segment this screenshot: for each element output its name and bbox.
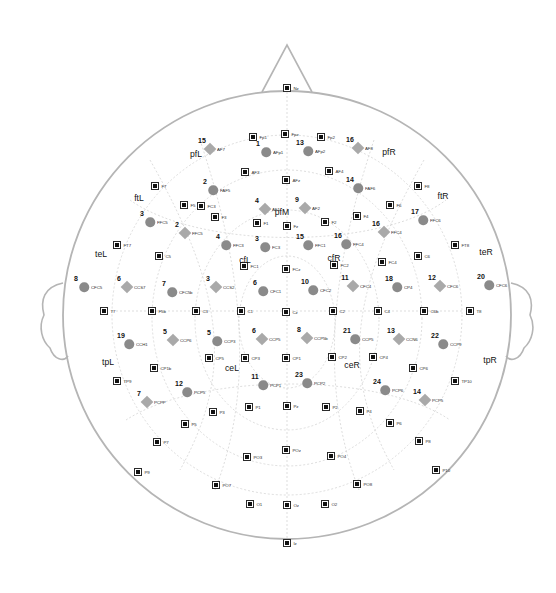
electrode-marker[interactable]	[414, 182, 422, 190]
electrode-inner	[330, 308, 336, 314]
region-diamond-label: PCPP	[154, 400, 166, 405]
region-circle-marker[interactable]	[380, 385, 390, 395]
electrode-marker[interactable]	[100, 307, 108, 315]
electrode-marker[interactable]	[386, 201, 394, 209]
region-circle-marker[interactable]	[341, 239, 351, 249]
electrode-marker[interactable]	[353, 212, 361, 220]
electrode-marker[interactable]	[241, 354, 249, 362]
region-diamond-label: FFC5	[192, 231, 203, 236]
region-circle-marker[interactable]	[392, 282, 402, 292]
electrode-marker[interactable]	[451, 377, 459, 385]
electrode-marker[interactable]	[209, 408, 217, 416]
electrode-marker[interactable]	[283, 222, 291, 230]
electrode-marker[interactable]	[283, 402, 291, 410]
electrode-marker[interactable]	[245, 403, 253, 411]
electrode-marker[interactable]	[322, 403, 330, 411]
electrode-marker[interactable]	[415, 437, 423, 445]
region-circle-marker[interactable]	[212, 336, 222, 346]
region-circle-marker[interactable]	[167, 287, 177, 297]
region-circle-marker[interactable]	[484, 280, 494, 290]
region-circle-marker[interactable]	[145, 217, 155, 227]
electrode-marker[interactable]	[237, 307, 245, 315]
region-circle-marker[interactable]	[438, 339, 448, 349]
electrode-marker[interactable]	[153, 438, 161, 446]
electrode-marker[interactable]	[113, 241, 121, 249]
region-circle-marker[interactable]	[303, 146, 313, 156]
region-circle-marker[interactable]	[208, 185, 218, 195]
electrode-marker[interactable]	[283, 539, 291, 547]
electrode-marker[interactable]	[353, 480, 361, 488]
electrode-marker[interactable]	[212, 481, 220, 489]
electrode-marker[interactable]	[148, 307, 156, 315]
electrode-marker[interactable]	[327, 452, 335, 460]
region-circle-label: CFC5	[91, 285, 102, 290]
region-circle-marker[interactable]	[79, 282, 89, 292]
region-circle-marker[interactable]	[182, 387, 192, 397]
electrode-inner	[213, 482, 219, 488]
electrode-marker[interactable]	[246, 500, 254, 508]
region-circle-marker[interactable]	[308, 285, 318, 295]
electrode-marker[interactable]	[253, 219, 261, 227]
electrode-marker[interactable]	[369, 353, 377, 361]
electrode-marker[interactable]	[181, 420, 189, 428]
region-circle-marker[interactable]	[221, 240, 231, 250]
electrode-label: FT8	[462, 243, 470, 248]
electrode-inner	[246, 404, 252, 410]
electrode-marker[interactable]	[283, 501, 291, 509]
electrode-marker[interactable]	[356, 407, 364, 415]
electrode-marker[interactable]	[155, 252, 163, 260]
electrode-marker[interactable]	[150, 364, 158, 372]
electrode-inner	[326, 168, 332, 174]
region-circle-marker[interactable]	[260, 242, 270, 252]
electrode-marker[interactable]	[134, 468, 142, 476]
electrode-marker[interactable]	[374, 307, 382, 315]
region-circle-marker[interactable]	[302, 378, 312, 388]
region-diamond-label: CFC6	[447, 284, 458, 289]
electrode-marker[interactable]	[113, 377, 121, 385]
electrode-marker[interactable]	[378, 258, 386, 266]
electrode-marker[interactable]	[432, 466, 440, 474]
electrode-marker[interactable]	[282, 354, 290, 362]
electrode-inner	[206, 355, 212, 361]
region-diamond-label: CCS2	[223, 285, 234, 290]
region-circle-marker[interactable]	[124, 339, 134, 349]
electrode-marker[interactable]	[409, 364, 417, 372]
region-circle-number: 15	[296, 233, 304, 240]
region-circle-marker[interactable]	[258, 286, 268, 296]
region-circle-marker[interactable]	[303, 240, 313, 250]
region-circle-marker[interactable]	[258, 380, 268, 390]
electrode-marker[interactable]	[205, 354, 213, 362]
region-circle-marker[interactable]	[261, 147, 271, 157]
electrode-marker[interactable]	[282, 446, 290, 454]
electrode-marker[interactable]	[282, 308, 290, 316]
electrode-marker[interactable]	[282, 265, 290, 273]
region-circle-marker[interactable]	[353, 183, 363, 193]
electrode-inner	[149, 308, 155, 314]
electrode-marker[interactable]	[243, 453, 251, 461]
region-circle-label: CFC5b	[179, 290, 192, 295]
electrode-marker[interactable]	[192, 307, 200, 315]
electrode-marker[interactable]	[317, 133, 325, 141]
region-label: tpR	[483, 355, 496, 365]
electrode-marker[interactable]	[241, 168, 249, 176]
electrode-marker[interactable]	[328, 353, 336, 361]
electrode-marker[interactable]	[466, 307, 474, 315]
electrode-marker[interactable]	[451, 241, 459, 249]
electrode-marker[interactable]	[420, 307, 428, 315]
electrode-marker[interactable]	[414, 252, 422, 260]
electrode-marker[interactable]	[281, 130, 289, 138]
electrode-marker[interactable]	[329, 307, 337, 315]
electrode-inner	[421, 308, 427, 314]
region-circle-marker[interactable]	[350, 334, 360, 344]
electrode-marker[interactable]	[197, 202, 205, 210]
electrode-marker[interactable]	[386, 419, 394, 427]
electrode-marker[interactable]	[151, 182, 159, 190]
electrode-marker[interactable]	[282, 176, 290, 184]
electrode-marker[interactable]	[325, 167, 333, 175]
electrode-marker[interactable]	[321, 218, 329, 226]
electrode-marker[interactable]	[211, 213, 219, 221]
region-circle-marker[interactable]	[418, 215, 428, 225]
electrode-marker[interactable]	[180, 201, 188, 209]
electrode-marker[interactable]	[321, 500, 329, 508]
electrode-marker[interactable]	[283, 84, 291, 92]
